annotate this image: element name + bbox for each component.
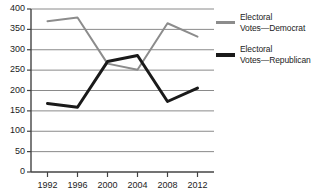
y-tick-label: 100 [1, 126, 25, 135]
y-tick-label: 150 [1, 106, 25, 115]
x-tick-label: 2008 [153, 181, 183, 190]
y-tick-label: 50 [1, 147, 25, 156]
data-series-lines [48, 18, 198, 108]
series-line-republican [48, 55, 198, 107]
legend-swatch-republican [216, 53, 235, 57]
legend-label-democrat-line2: Votes—Democrat [240, 23, 329, 34]
legend-label-republican-line2: Votes—Republican [240, 55, 329, 66]
y-tick-label: 0 [1, 167, 25, 176]
x-tick-label: 1996 [63, 181, 93, 190]
y-gridlines [31, 9, 214, 152]
legend-label-republican: Electoral Votes—Republican [240, 44, 329, 66]
chart-legend: Electoral Votes—Democrat Electoral Votes… [216, 12, 329, 76]
y-tick-label: 200 [1, 86, 25, 95]
x-tick-marks [48, 172, 198, 177]
electoral-votes-line-chart: 050100150200250300350400 199219962000200… [0, 0, 329, 196]
x-tick-label: 2000 [93, 181, 123, 190]
x-tick-label: 2012 [183, 181, 213, 190]
legend-item-republican: Electoral Votes—Republican [216, 44, 329, 68]
y-tick-label: 250 [1, 65, 25, 74]
y-tick-label: 400 [1, 4, 25, 13]
y-tick-label: 350 [1, 24, 25, 33]
legend-label-republican-line1: Electoral [240, 44, 329, 55]
legend-swatch-democrat [216, 21, 235, 24]
series-line-democrat [48, 18, 198, 70]
legend-label-democrat: Electoral Votes—Democrat [240, 12, 329, 34]
x-tick-label: 1992 [33, 181, 63, 190]
legend-item-democrat: Electoral Votes—Democrat [216, 12, 329, 36]
legend-label-democrat-line1: Electoral [240, 12, 329, 23]
x-tick-label: 2004 [123, 181, 153, 190]
y-tick-label: 300 [1, 45, 25, 54]
